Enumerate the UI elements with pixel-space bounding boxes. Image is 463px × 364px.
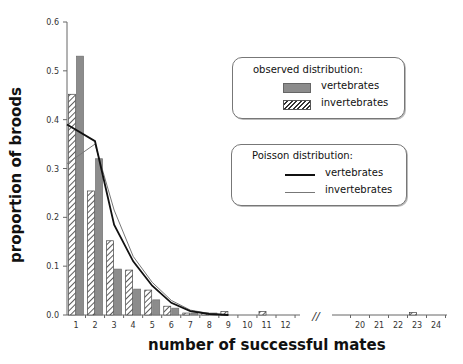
- x-axis-title: number of successful mates: [148, 336, 386, 354]
- x-tick-label: 1: [73, 321, 78, 330]
- bar-vertebrates: [115, 269, 122, 315]
- x-tick-label: 8: [207, 321, 212, 330]
- y-tick-label: 0.5: [46, 67, 59, 76]
- x-tick-label: 6: [169, 321, 174, 330]
- bar-invertebrates: [183, 313, 190, 315]
- x-tick-label: 21: [374, 321, 384, 330]
- y-tick-label: 0.0: [46, 311, 59, 320]
- y-axis-title: proportion of broods: [7, 87, 25, 263]
- y-tick-label: 0.6: [46, 18, 59, 27]
- y-tick-label: 0.1: [46, 262, 59, 271]
- bar-vertebrates: [134, 289, 141, 315]
- bar-invertebrates: [259, 312, 266, 315]
- x-tick-label: 23: [412, 321, 422, 330]
- bar-invertebrates: [88, 191, 95, 315]
- legend-poisson: Poisson distribution: vertebrates invert…: [231, 144, 407, 206]
- bar-invertebrates: [164, 306, 171, 315]
- x-tick-label: 7: [188, 321, 193, 330]
- x-tick-label: 10: [242, 321, 252, 330]
- x-tick-label: 12: [280, 321, 290, 330]
- bar-vertebrates: [96, 159, 103, 315]
- x-tick-label: 5: [150, 321, 155, 330]
- y-tick-label: 0.4: [46, 116, 59, 125]
- legend-observed-vertebrates: vertebrates: [321, 80, 379, 91]
- legend-observed: observed distribution: vertebrates inver…: [232, 57, 405, 119]
- bar-invertebrates: [107, 241, 114, 315]
- legend-poisson-invertebrates: invertebrates: [325, 184, 392, 195]
- axis-break-mark: //: [311, 310, 321, 323]
- legend-observed-invertebrates: invertebrates: [321, 97, 388, 108]
- x-tick-label: 11: [261, 321, 271, 330]
- bar-invertebrates: [145, 290, 152, 315]
- x-tick-label: 2: [93, 321, 98, 330]
- bar-vertebrates: [153, 300, 160, 315]
- bar-vertebrates: [191, 313, 198, 315]
- bar-invertebrates: [410, 313, 417, 315]
- x-tick-label: 22: [393, 321, 403, 330]
- legend-poisson-vertebrates: vertebrates: [325, 167, 383, 178]
- bar-vertebrates: [77, 56, 84, 315]
- invertebrate-hatched-swatch-icon: [283, 100, 311, 110]
- x-tick-label: 24: [431, 321, 441, 330]
- x-tick-label: 4: [131, 321, 136, 330]
- bar-vertebrates: [172, 308, 179, 315]
- y-tick-label: 0.3: [46, 165, 59, 174]
- poisson-invertebrates-line-icon: [285, 192, 315, 193]
- poisson-vertebrates-line-icon: [285, 174, 315, 176]
- x-tick-label: 9: [226, 321, 231, 330]
- x-tick-label: 3: [112, 321, 117, 330]
- legend-poisson-title: Poisson distribution:: [252, 150, 353, 161]
- legend-observed-title: observed distribution:: [253, 64, 363, 75]
- vertebrate-bar-swatch-icon: [283, 83, 311, 93]
- x-tick-label: 20: [355, 321, 365, 330]
- bar-invertebrates: [126, 270, 133, 315]
- y-tick-label: 0.2: [46, 213, 59, 222]
